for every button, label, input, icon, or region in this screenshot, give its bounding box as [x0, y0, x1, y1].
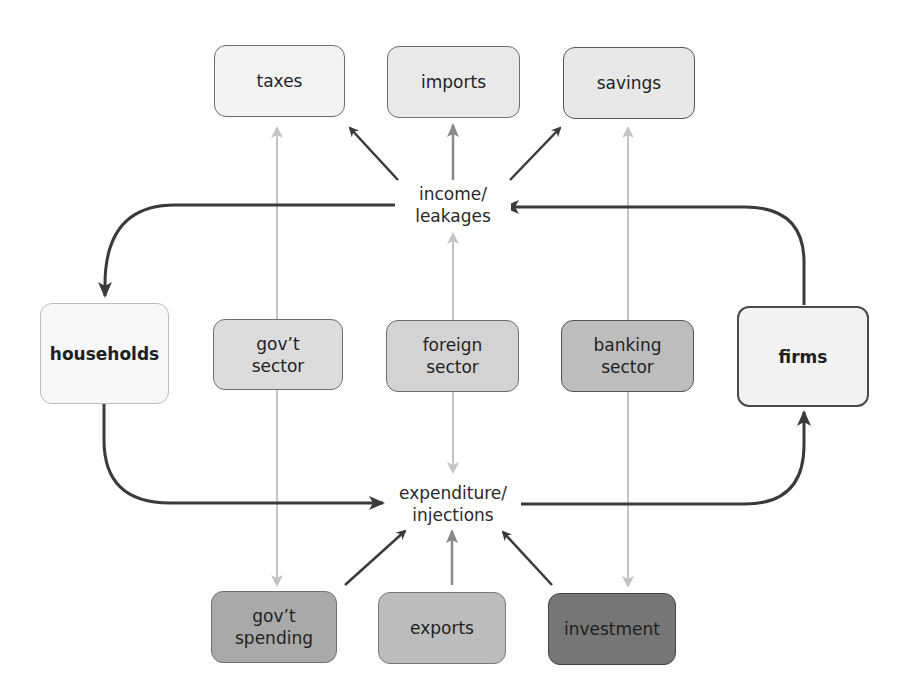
- banking-sector-box[interactable]: banking sector: [561, 320, 694, 392]
- firms-to-income-arrow: [505, 207, 804, 305]
- foreign-sector-label: foreign sector: [423, 334, 483, 378]
- firms-label: firms: [779, 346, 828, 368]
- injection-arrows: [345, 531, 552, 585]
- govt-sector-label: gov’t sector: [252, 333, 305, 377]
- firms-box[interactable]: firms: [737, 306, 869, 407]
- income-leakages-label: income/ leakages: [395, 183, 511, 227]
- households-to-expenditure-arrow: [104, 404, 383, 503]
- households-label: households: [50, 343, 159, 365]
- exports-label: exports: [410, 617, 474, 639]
- imports-label: imports: [421, 71, 486, 93]
- banking-sector-label: banking sector: [593, 334, 661, 378]
- leakage-arrows: [350, 125, 560, 180]
- expenditure-to-firms-arrow: [518, 412, 804, 504]
- taxes-label: taxes: [257, 70, 303, 92]
- govt-spending-label: gov’t spending: [235, 605, 313, 649]
- income-to-taxes-arrow: [350, 128, 398, 180]
- savings-box[interactable]: savings: [563, 47, 695, 119]
- income-to-households-arrow: [105, 205, 400, 296]
- investment-label: investment: [564, 618, 660, 640]
- households-box[interactable]: households: [40, 303, 169, 404]
- taxes-box[interactable]: taxes: [214, 45, 345, 117]
- investment-to-expenditure-arrow: [503, 532, 552, 585]
- imports-box[interactable]: imports: [387, 46, 520, 118]
- govt-sector-box[interactable]: gov’t sector: [213, 319, 343, 390]
- foreign-sector-box[interactable]: foreign sector: [386, 320, 519, 392]
- investment-box[interactable]: investment: [548, 593, 676, 665]
- savings-label: savings: [597, 72, 661, 94]
- exports-box[interactable]: exports: [378, 592, 506, 664]
- income-to-savings-arrow: [510, 128, 560, 180]
- expenditure-injections-label: expenditure/ injections: [385, 482, 521, 526]
- govt-spending-to-expenditure-arrow: [345, 531, 405, 585]
- govt-spending-box[interactable]: gov’t spending: [211, 591, 337, 663]
